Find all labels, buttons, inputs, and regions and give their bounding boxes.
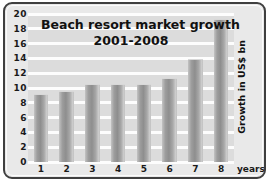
x-axis-tick-label: 6 bbox=[166, 164, 172, 174]
y-axis: 20181614121086420 bbox=[7, 14, 28, 162]
y-axis-tick-label: 0 bbox=[20, 158, 27, 167]
x-axis-tick-label: 5 bbox=[141, 164, 147, 174]
chart-subtitle: 2001-2008 bbox=[41, 33, 221, 48]
bar bbox=[111, 84, 125, 162]
bar bbox=[85, 84, 99, 162]
y-axis-tick-label: 20 bbox=[13, 10, 27, 19]
x-axis-unit-label: years bbox=[237, 164, 265, 174]
y-axis-tick-label: 2 bbox=[20, 143, 27, 152]
x-axis: 12345678 bbox=[28, 162, 234, 178]
x-axis-tick-label: 8 bbox=[218, 164, 224, 174]
y-axis-tick-label: 18 bbox=[13, 24, 27, 33]
chart-frame: 20181614121086420 12345678 years Beach r… bbox=[3, 2, 266, 179]
bar bbox=[137, 84, 151, 162]
y-axis-tick-label: 4 bbox=[20, 128, 27, 137]
chart-title: Beach resort market growth bbox=[41, 17, 221, 32]
y-axis-tick-label: 12 bbox=[13, 69, 27, 78]
bar bbox=[34, 94, 48, 162]
bar bbox=[188, 59, 202, 162]
y-axis-tick-label: 6 bbox=[20, 113, 27, 122]
y-axis-tick-label: 16 bbox=[13, 39, 27, 48]
x-axis-tick-label: 7 bbox=[192, 164, 198, 174]
y-axis-tick-label: 14 bbox=[13, 54, 27, 63]
bar bbox=[162, 78, 176, 162]
x-axis-tick-label: 4 bbox=[115, 164, 121, 174]
y-axis-tick-label: 10 bbox=[13, 84, 27, 93]
x-axis-tick-label: 2 bbox=[63, 164, 69, 174]
y-axis-label: Growth in US$ bn bbox=[236, 40, 247, 152]
x-axis-tick-label: 3 bbox=[89, 164, 95, 174]
bar bbox=[59, 91, 73, 162]
x-axis-tick-label: 1 bbox=[38, 164, 44, 174]
y-axis-tick-label: 8 bbox=[20, 98, 27, 107]
